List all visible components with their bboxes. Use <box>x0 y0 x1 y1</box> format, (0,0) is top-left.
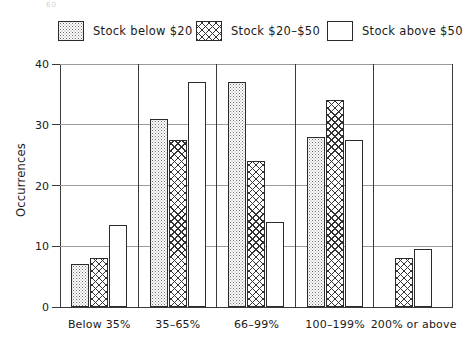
scan-artifact: 60 <box>46 1 57 9</box>
legend-label-stock-20-50: Stock $20–$50 <box>231 24 320 38</box>
y-tick-label-20: 20 <box>35 179 49 192</box>
legend-swatch-dotted-icon <box>58 21 84 41</box>
bar-group: 200% or above <box>374 64 453 307</box>
bar[interactable] <box>266 222 284 307</box>
bar[interactable] <box>247 161 265 307</box>
y-tick-mark-30 <box>52 124 60 125</box>
plot-area: 010203040Below 35%35–65%66–99%100–199%20… <box>60 64 453 307</box>
bar[interactable] <box>395 258 413 307</box>
legend-label-stock-above-50: Stock above $50 <box>362 24 463 38</box>
y-axis-title-wrap: Occurrences <box>0 0 26 342</box>
bar[interactable] <box>150 119 168 307</box>
bar[interactable] <box>326 100 344 307</box>
x-tick-label: 66–99% <box>234 318 279 331</box>
legend-label-stock-below-20: Stock below $20 <box>93 24 193 38</box>
x-tick-label: Below 35% <box>68 318 131 331</box>
bar[interactable] <box>109 225 127 307</box>
bar[interactable] <box>345 140 363 307</box>
bar[interactable] <box>414 249 432 307</box>
y-tick-mark-20 <box>52 185 60 186</box>
legend-swatch-crosshatch-icon <box>196 21 222 41</box>
bar[interactable] <box>90 258 108 307</box>
bar[interactable] <box>228 82 246 307</box>
y-tick-label-0: 0 <box>42 301 49 314</box>
bar-group: 100–199% <box>296 64 375 307</box>
y-tick-label-30: 30 <box>35 118 49 131</box>
y-tick-label-10: 10 <box>35 240 49 253</box>
legend-item-stock-20-50[interactable]: Stock $20–$50 <box>196 18 320 44</box>
bar[interactable] <box>71 264 89 307</box>
bar[interactable] <box>188 82 206 307</box>
bar[interactable] <box>169 140 187 307</box>
bar-group: Below 35% <box>60 64 139 307</box>
bar-group: 66–99% <box>217 64 296 307</box>
chart-legend: Stock below $20 Stock $20–$50 Stock abov… <box>0 18 455 44</box>
bar[interactable] <box>307 137 325 307</box>
y-tick-label-40: 40 <box>35 58 49 71</box>
bar-group: 35–65% <box>139 64 218 307</box>
legend-swatch-empty-icon <box>327 21 353 41</box>
x-tick-label: 35–65% <box>155 318 200 331</box>
legend-item-stock-above-50[interactable]: Stock above $50 <box>327 18 463 44</box>
legend-item-stock-below-20[interactable]: Stock below $20 <box>58 18 193 44</box>
y-tick-mark-0 <box>52 307 60 308</box>
y-tick-mark-40 <box>52 64 60 65</box>
x-tick-label: 100–199% <box>305 318 365 331</box>
x-tick-label: 200% or above <box>371 318 457 331</box>
y-tick-mark-10 <box>52 246 60 247</box>
category-separator <box>452 64 453 307</box>
y-axis-title: Occurrences <box>14 60 28 300</box>
